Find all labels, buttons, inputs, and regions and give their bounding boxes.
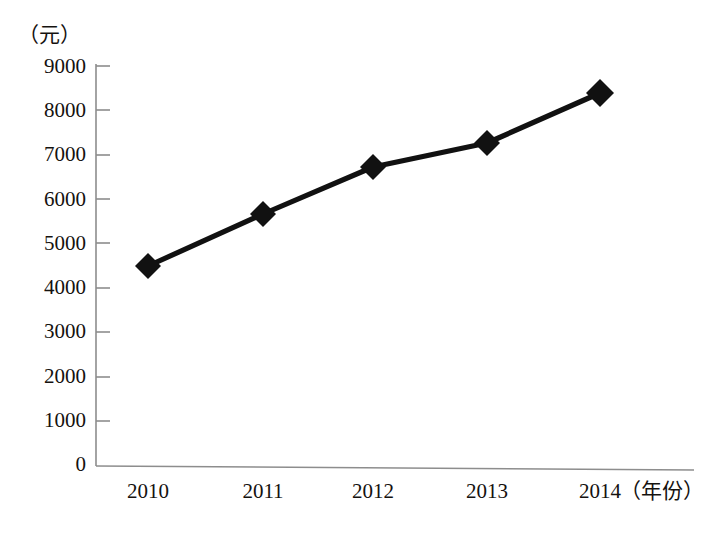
plot-area bbox=[0, 0, 724, 544]
x-tick-label-2012: 2012 bbox=[313, 481, 433, 502]
data-point-2014 bbox=[586, 79, 614, 107]
series-markers bbox=[135, 79, 614, 279]
data-point-2012 bbox=[360, 154, 386, 180]
data-point-2010 bbox=[135, 253, 161, 279]
x-tick-label-2011: 2011 bbox=[203, 481, 323, 502]
x-tick-label-2013: 2013 bbox=[427, 481, 547, 502]
y-axis-ticks bbox=[96, 66, 110, 421]
line-chart-figure: （元） 9000 8000 7000 6000 5000 4000 3000 2… bbox=[0, 0, 724, 544]
x-axis-line bbox=[96, 466, 694, 470]
x-axis-unit-label: （年份） bbox=[620, 481, 704, 502]
data-point-2013 bbox=[474, 130, 500, 156]
series-line bbox=[148, 93, 600, 266]
x-tick-label-2010: 2010 bbox=[88, 481, 208, 502]
data-point-2011 bbox=[250, 201, 276, 227]
